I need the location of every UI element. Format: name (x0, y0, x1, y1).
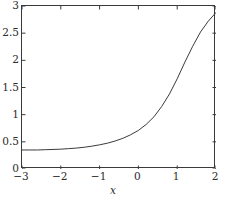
tick-marks (22, 6, 216, 169)
x-tick-label: −3 (13, 171, 28, 182)
chart-figure: 00.511.522.53 −3−2−1012 x (0, 0, 226, 200)
x-axis-title: x (0, 184, 226, 196)
data-series-curve (22, 13, 216, 150)
y-tick-label: 3 (12, 0, 19, 11)
y-tick-label: 2 (12, 54, 19, 65)
y-tick-label: 1 (12, 109, 19, 120)
x-tick-label: −1 (91, 171, 106, 182)
x-tick-label: −2 (52, 171, 67, 182)
y-tick-label: 1.5 (2, 82, 19, 93)
x-tick-label: 1 (173, 171, 180, 182)
plot-canvas (22, 6, 216, 169)
plot-area (21, 5, 215, 168)
x-tick-label: 0 (134, 171, 141, 182)
y-tick-label: 0.5 (2, 136, 19, 147)
x-tick-label: 2 (212, 171, 219, 182)
y-tick-label: 2.5 (2, 27, 19, 38)
x-axis-tick-labels: −3−2−1012 (0, 171, 226, 185)
